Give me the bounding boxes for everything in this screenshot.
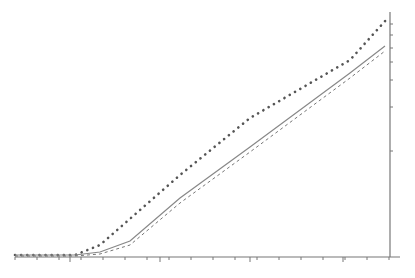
series-dashed-line [15,51,385,256]
y-axis [390,12,393,257]
x-axis [15,257,400,262]
series-group [15,20,386,256]
series-dotted-line [15,20,386,255]
line-chart [0,0,415,278]
series-solid-line [15,46,385,255]
